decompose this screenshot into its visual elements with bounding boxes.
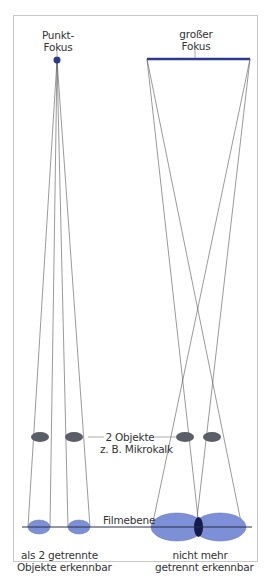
large-focus-label: großer Fokus bbox=[176, 28, 216, 52]
objects-label: 2 Objekte z. B. Mikrokalk bbox=[100, 431, 160, 455]
right-rays bbox=[147, 59, 250, 527]
object-right-2 bbox=[203, 432, 221, 442]
left-rays bbox=[28, 60, 90, 527]
left-result-label: als 2 getrennte Objekte erkennbar bbox=[17, 549, 102, 573]
object-left-2 bbox=[65, 432, 83, 442]
object-left-1 bbox=[31, 432, 49, 442]
film-plane-label: Filmebene bbox=[103, 514, 153, 526]
point-focus-label: Punkt- Fokus bbox=[38, 29, 78, 53]
object-right-1 bbox=[176, 432, 194, 442]
point-focus-icon bbox=[54, 57, 61, 64]
right-result-label: nicht mehr getrennt erkennbar bbox=[155, 549, 245, 573]
focus-geometry-diagram bbox=[0, 0, 273, 584]
